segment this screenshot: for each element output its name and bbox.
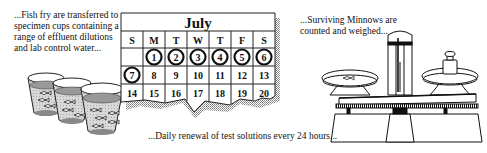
- calendar-day: 13: [259, 70, 269, 81]
- step1-caption: ...Fish fry are transferred to specimen …: [14, 10, 124, 54]
- balance-scale-illustration: [322, 31, 482, 142]
- calendar-day: 19: [237, 88, 247, 99]
- fish-icon: [343, 77, 351, 80]
- weekday-label: F: [239, 35, 245, 46]
- calendar-day: 11: [215, 70, 224, 81]
- calendar-day: 16: [171, 88, 181, 99]
- calendar-illustration: July S M T W T F S 1 2 3 4 5 6: [121, 13, 280, 118]
- calendar-day: 3: [196, 52, 201, 63]
- step3-caption: ...Surviving Minnows are counted and wei…: [300, 15, 400, 37]
- calendar-day: 17: [193, 88, 203, 99]
- weekday-label: S: [129, 35, 135, 46]
- calendar-day: 8: [152, 70, 157, 81]
- weight-icon: [443, 52, 457, 75]
- step2-caption: ...Daily renewal of test solutions every…: [148, 131, 348, 142]
- calendar-month-title: July: [184, 15, 212, 31]
- weekday-label: T: [173, 35, 180, 46]
- calendar-day: 5: [240, 52, 245, 63]
- calendar-day: 1: [152, 52, 157, 63]
- weekday-label: T: [217, 35, 224, 46]
- calendar-day: 4: [218, 52, 223, 63]
- calendar-day: 12: [237, 70, 247, 81]
- weekday-label: M: [149, 35, 159, 46]
- calendar-day: 20: [259, 88, 269, 99]
- calendar-day: 9: [174, 70, 179, 81]
- weekday-label: S: [261, 35, 267, 46]
- calendar-day: 18: [215, 88, 225, 99]
- specimen-cup-3: [81, 83, 123, 135]
- calendar-day: 10: [193, 70, 203, 81]
- specimen-cups-illustration: [28, 73, 123, 135]
- calendar-day: 15: [149, 88, 159, 99]
- calendar-day: 2: [174, 52, 179, 63]
- calendar-day: 14: [127, 88, 137, 99]
- calendar-day: 6: [262, 52, 267, 63]
- weekday-label: W: [193, 35, 203, 46]
- calendar-day: 7: [130, 70, 135, 81]
